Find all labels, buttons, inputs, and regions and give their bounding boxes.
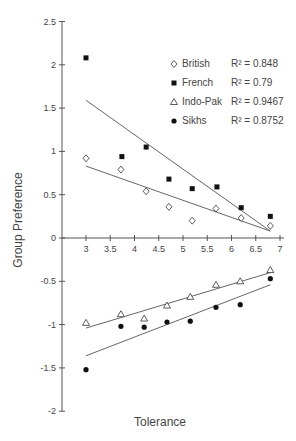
x-tick-label: 7 <box>277 244 282 254</box>
point-sikhs <box>238 302 243 307</box>
point-sikhs <box>142 325 147 330</box>
legend-r2-indo-pak: R² = 0.9467 <box>231 96 284 107</box>
point-british <box>143 188 149 195</box>
point-sikhs <box>268 276 273 281</box>
point-british <box>118 166 124 173</box>
legend-label-indo-pak: Indo-Pak <box>182 96 223 107</box>
x-axis-label: Tolerance <box>134 415 186 429</box>
point-british <box>83 155 89 162</box>
x-tick-label: 6.5 <box>249 244 262 254</box>
point-british <box>267 222 273 229</box>
point-french <box>214 184 219 189</box>
point-french <box>166 177 171 182</box>
legend-r2-british: R² = 0.848 <box>231 58 278 69</box>
trend-line-british <box>86 166 270 231</box>
legend-label-british: British <box>182 58 210 69</box>
point-french <box>190 186 195 191</box>
y-tick-label: -0.5 <box>40 276 56 286</box>
x-tick-label: 6 <box>229 244 234 254</box>
y-tick-label: 1 <box>51 146 56 156</box>
point-french <box>144 145 149 150</box>
y-tick-label: -2 <box>48 406 56 416</box>
indo-pak-legend-marker <box>171 99 178 105</box>
x-tick-label: 3 <box>83 244 88 254</box>
point-sikhs <box>164 319 169 324</box>
x-tick-label: 5.5 <box>201 244 214 254</box>
point-sikhs <box>83 367 88 372</box>
point-indo-pak <box>267 267 274 273</box>
trend-lines <box>86 100 270 355</box>
legend-r2-sikhs: R² = 0.8752 <box>231 115 284 126</box>
y-tick-label: 0.5 <box>43 190 56 200</box>
sikhs-legend-marker <box>171 118 176 123</box>
x-tick-label: 5 <box>180 244 185 254</box>
legend: BritishR² = 0.848FrenchR² = 0.79Indo-Pak… <box>171 58 284 126</box>
point-french <box>268 214 273 219</box>
point-sikhs <box>188 319 193 324</box>
trend-line-indo-pak <box>86 273 270 328</box>
legend-label-sikhs: Sikhs <box>182 115 206 126</box>
point-indo-pak <box>212 281 219 287</box>
y-tick-label: -1 <box>48 320 56 330</box>
x-tick-label: 3.5 <box>104 244 117 254</box>
y-tick-label: 0 <box>51 233 56 243</box>
point-indo-pak <box>117 311 124 317</box>
y-tick-label: 1.5 <box>43 103 56 113</box>
point-british <box>189 217 195 224</box>
british-legend-marker <box>171 61 177 68</box>
y-tick-label: 2.5 <box>43 17 56 27</box>
point-british <box>166 203 172 210</box>
point-french <box>84 55 89 60</box>
point-indo-pak <box>83 319 90 325</box>
x-tick-label: 4 <box>132 244 137 254</box>
x-tick-label: 4.5 <box>152 244 165 254</box>
point-sikhs <box>213 305 218 310</box>
trend-line-sikhs <box>86 285 270 356</box>
y-tick-label: 2 <box>51 60 56 70</box>
point-indo-pak <box>141 315 148 321</box>
legend-r2-french: R² = 0.79 <box>231 77 273 88</box>
y-axis-label: Group Preference <box>11 172 25 268</box>
point-french <box>239 205 244 210</box>
scatter-chart: 2.521.510.50-0.5-1-1.5-233.544.555.566.5… <box>0 0 296 441</box>
point-french <box>119 154 124 159</box>
point-sikhs <box>118 324 123 329</box>
y-tick-label: -1.5 <box>40 363 56 373</box>
legend-label-french: French <box>182 77 213 88</box>
french-legend-marker <box>172 81 177 86</box>
